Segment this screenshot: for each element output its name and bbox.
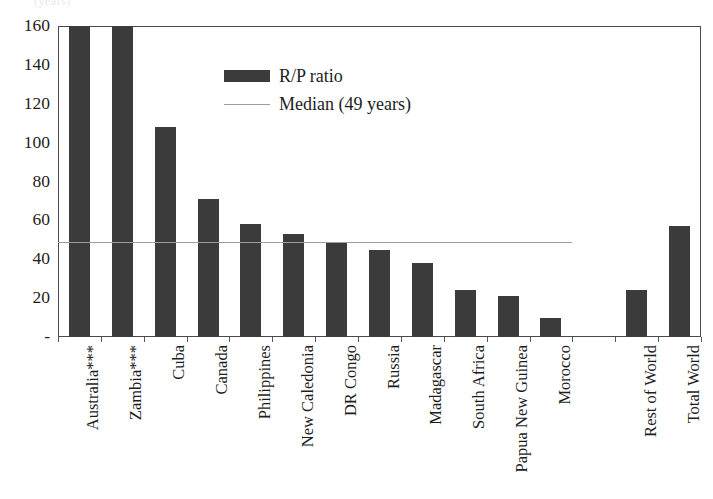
x-axis-label: Canada: [214, 345, 231, 394]
x-tick-mark: [58, 337, 59, 342]
bar: [326, 242, 347, 337]
legend-line-swatch-icon: [224, 104, 270, 105]
x-axis-label: Papua New Guinea: [514, 345, 531, 472]
y-tick-label: 20: [33, 289, 51, 307]
x-axis-label: Madagascar: [428, 345, 445, 425]
x-tick-mark: [272, 337, 273, 342]
x-axis-label: Morocco: [557, 345, 574, 405]
legend-label-median: Median (49 years): [279, 95, 411, 113]
bar: [198, 199, 219, 337]
x-axis-label-text: Madagascar: [428, 345, 445, 425]
x-axis-label-text: Russia: [386, 345, 403, 389]
bar: [69, 26, 90, 337]
x-tick-mark: [144, 337, 145, 342]
x-tick-mark: [187, 337, 188, 342]
x-tick-mark: [487, 337, 488, 342]
x-axis-label-text: South Africa: [471, 345, 488, 429]
legend-item-median: Median (49 years): [224, 90, 464, 118]
bar: [283, 234, 304, 337]
x-axis-label-text: Canada: [214, 345, 231, 394]
x-tick-mark: [444, 337, 445, 342]
x-axis-labels: Australia***Zambia***CubaCanadaPhilippin…: [58, 345, 701, 499]
x-axis-label-text: DR Congo: [343, 345, 360, 416]
x-axis-label: Russia: [386, 345, 403, 389]
x-tick-mark: [701, 337, 702, 342]
x-axis-label-text: Papua New Guinea: [514, 345, 531, 472]
x-axis-label-text: Morocco: [557, 345, 574, 405]
y-tick-label: 120: [24, 95, 50, 113]
legend-item-rp-ratio: R/P ratio: [224, 62, 464, 90]
bar: [112, 26, 133, 337]
bar: [498, 296, 519, 337]
y-tick-label: -: [44, 328, 50, 346]
x-axis-label-text: Philippines: [257, 345, 274, 419]
bar: [412, 263, 433, 337]
x-tick-mark: [401, 337, 402, 342]
x-axis-label: Rest of World: [643, 345, 660, 437]
x-axis-label-text: Zambia***: [128, 345, 145, 420]
legend-bar-swatch-icon: [224, 70, 270, 82]
x-axis-label: DR Congo: [343, 345, 360, 416]
x-axis-tick-marks: [58, 337, 701, 343]
bar: [540, 318, 561, 337]
x-tick-mark: [530, 337, 531, 342]
bar: [155, 127, 176, 337]
x-tick-mark: [572, 337, 573, 342]
x-axis-label: South Africa: [471, 345, 488, 429]
x-tick-mark: [358, 337, 359, 342]
y-axis: 16014012010080604020-: [0, 26, 54, 337]
x-axis-label: Philippines: [257, 345, 274, 419]
x-axis-label: Total World: [686, 345, 703, 423]
y-tick-label: 40: [33, 251, 51, 269]
x-axis-label-text: Total World: [686, 345, 703, 423]
median-reference-line: [58, 242, 572, 244]
x-axis-label-text: Cuba: [171, 345, 188, 380]
x-axis-label-text: Australia***: [85, 345, 102, 430]
y-tick-label: 80: [33, 173, 51, 191]
x-axis-label: Australia***: [85, 345, 102, 430]
y-tick-label: 140: [24, 56, 50, 74]
x-tick-mark: [101, 337, 102, 342]
x-axis-label: Zambia***: [128, 345, 145, 420]
x-axis-label-text: Rest of World: [643, 345, 660, 437]
x-tick-mark: [315, 337, 316, 342]
bar: [669, 226, 690, 337]
y-tick-label: 160: [24, 17, 50, 35]
x-axis-label: Cuba: [171, 345, 188, 380]
x-axis-label: New Caledonia: [300, 345, 317, 447]
legend: R/P ratio Median (49 years): [224, 62, 464, 118]
chart-container: (years) 16014012010080604020- Australia*…: [0, 0, 713, 499]
bar: [455, 290, 476, 337]
y-tick-label: 60: [33, 212, 51, 230]
x-tick-mark: [658, 337, 659, 342]
clipped-caption-sliver: (years): [34, 0, 71, 9]
bar: [369, 250, 390, 337]
bar: [626, 290, 647, 337]
x-tick-mark: [615, 337, 616, 342]
x-tick-mark: [229, 337, 230, 342]
legend-label-rp-ratio: R/P ratio: [279, 67, 343, 85]
x-axis-label-text: New Caledonia: [300, 345, 317, 447]
y-tick-label: 100: [24, 134, 50, 152]
